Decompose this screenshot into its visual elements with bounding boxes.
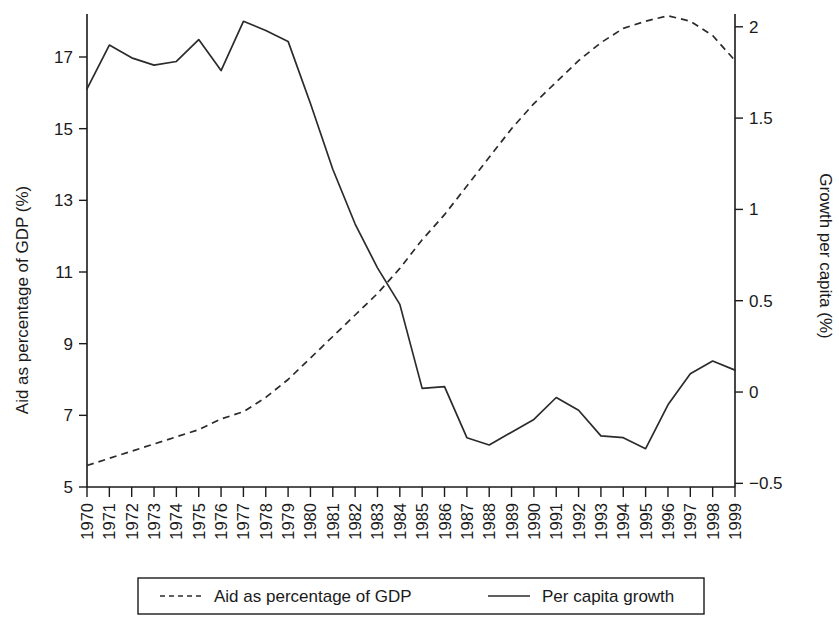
- x-tick-label: 1988: [480, 503, 498, 540]
- x-tick-label: 1975: [190, 503, 208, 540]
- left-tick-label: 7: [64, 406, 73, 425]
- x-tick-label: 1989: [503, 503, 521, 540]
- x-tick-label: 1994: [614, 503, 632, 540]
- x-tick-label: 1997: [681, 503, 699, 540]
- x-tick-label: 1977: [234, 503, 252, 540]
- x-tick-label: 1992: [570, 503, 588, 540]
- x-tick-label: 1972: [123, 503, 141, 540]
- x-tick-label: 1970: [78, 503, 96, 540]
- left-tick-label: 13: [54, 191, 73, 210]
- chart-legend: Aid as percentage of GDPPer capita growt…: [138, 578, 704, 614]
- x-tick-label: 1991: [547, 503, 565, 540]
- x-tick-label: 1996: [659, 503, 677, 540]
- x-tick-label: 1993: [592, 503, 610, 540]
- left-tick-label: 9: [64, 335, 73, 354]
- chart-figure: 57911131517 −0.500.511.52 19701971197219…: [0, 0, 839, 625]
- left-tick-label: 5: [64, 478, 73, 497]
- series-line-growth: [87, 21, 735, 448]
- x-tick-label: 1987: [458, 503, 476, 540]
- x-tick-label: 1973: [145, 503, 163, 540]
- left-tick-label: 17: [54, 48, 73, 67]
- right-axis-title: Growth per capita (%): [816, 173, 835, 338]
- x-tick-label: 1998: [704, 503, 722, 540]
- x-tick-label: 1978: [257, 503, 275, 540]
- x-tick-label: 1976: [212, 503, 230, 540]
- left-tick-label: 11: [55, 263, 73, 282]
- x-tick-label: 1982: [346, 503, 364, 540]
- x-tick-label: 1990: [525, 503, 543, 540]
- right-tick-label: 0: [749, 383, 758, 402]
- right-tick-label: 1.5: [749, 109, 773, 128]
- x-tick-label: 1983: [368, 503, 386, 540]
- left-tick-label: 15: [54, 120, 73, 139]
- series-line-aid: [87, 16, 735, 466]
- x-tick-label: 1999: [726, 503, 744, 540]
- x-tick-label: 1980: [301, 503, 319, 540]
- legend-label-growth: Per capita growth: [542, 587, 674, 606]
- left-axis: 57911131517: [54, 14, 87, 497]
- x-tick-label: 1985: [413, 503, 431, 540]
- left-axis-title: Aid as percentage of GDP (%): [13, 186, 32, 414]
- legend-label-aid: Aid as percentage of GDP: [214, 587, 412, 606]
- x-tick-label: 1995: [637, 503, 655, 540]
- chart-svg: 57911131517 −0.500.511.52 19701971197219…: [0, 0, 839, 625]
- series-lines: [87, 16, 735, 466]
- x-tick-label: 1981: [324, 503, 342, 540]
- x-tick-label: 1984: [391, 503, 409, 540]
- right-tick-label: 1: [749, 200, 758, 219]
- x-axis: 1970197119721973197419751976197719781979…: [78, 487, 744, 540]
- right-axis: −0.500.511.52: [735, 14, 783, 493]
- right-tick-label: 2: [749, 18, 758, 37]
- right-tick-label: 0.5: [749, 292, 773, 311]
- x-tick-label: 1979: [279, 503, 297, 540]
- x-tick-label: 1974: [167, 503, 185, 540]
- x-tick-label: 1971: [100, 503, 118, 540]
- right-tick-label: −0.5: [749, 474, 783, 493]
- x-tick-label: 1986: [436, 503, 454, 540]
